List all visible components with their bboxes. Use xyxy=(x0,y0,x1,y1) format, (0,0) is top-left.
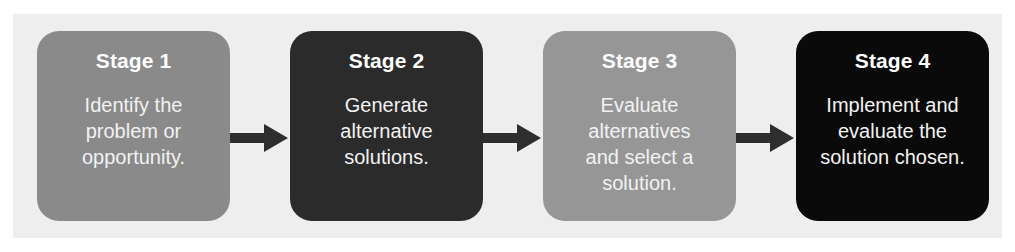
cut-off-text-remnant xyxy=(0,0,1015,12)
stage-2-box[interactable]: Stage 2 Generate alternative solutions. xyxy=(290,31,483,221)
stage-2-description: Generate alternative solutions. xyxy=(330,92,442,170)
process-flow-row: Stage 1 Identify the problem or opportun… xyxy=(13,14,1002,238)
stage-1-description: Identify the problem or opportunity. xyxy=(72,92,195,170)
arrow-stage3-to-stage4-icon xyxy=(736,120,796,156)
stage-1-box[interactable]: Stage 1 Identify the problem or opportun… xyxy=(37,31,230,221)
stage-4-box[interactable]: Stage 4 Implement and evaluate the solut… xyxy=(796,31,989,221)
stage-3-description: Evaluate alternatives and select a solut… xyxy=(576,92,704,196)
stage-3-title: Stage 3 xyxy=(602,49,677,73)
diagram-frame: Stage 1 Identify the problem or opportun… xyxy=(13,14,1002,238)
stage-2-title: Stage 2 xyxy=(349,49,424,73)
stage-4-title: Stage 4 xyxy=(855,49,930,73)
arrow-stage1-to-stage2-icon xyxy=(230,120,290,156)
stage-4-description: Implement and evaluate the solution chos… xyxy=(810,92,975,170)
stage-1-title: Stage 1 xyxy=(96,49,171,73)
stage-3-box[interactable]: Stage 3 Evaluate alternatives and select… xyxy=(543,31,736,221)
arrow-stage2-to-stage3-icon xyxy=(483,120,543,156)
